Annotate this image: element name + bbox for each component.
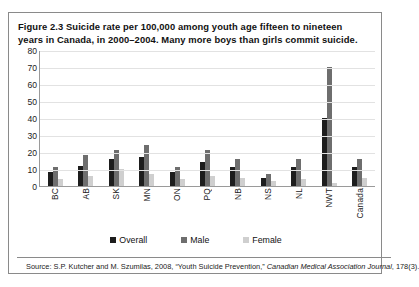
source-suffix: , 178(3).	[392, 262, 419, 271]
gridline	[40, 68, 375, 69]
source-box: Source: S.P. Kutcher and M. Szumilas, 20…	[17, 257, 391, 275]
legend-item-female: Female	[243, 235, 281, 245]
x-label-cell: Canada	[345, 188, 375, 230]
y-tick-label: 50	[27, 98, 37, 107]
x-label-cell: NS	[253, 188, 283, 230]
x-tick-label: BC	[50, 188, 60, 200]
x-tick-label: SK	[111, 188, 121, 200]
bar-female	[88, 176, 93, 186]
chart-area: 80706050403020100 BCABSKMNONPQNBNSNLNWTC…	[17, 51, 375, 219]
legend-label: Overall	[119, 235, 147, 245]
source-citation: Source: S.P. Kutcher and M. Szumilas, 20…	[26, 262, 419, 271]
bar-female	[332, 183, 337, 186]
bar-female	[210, 176, 215, 186]
y-tick-label: 60	[27, 81, 37, 90]
x-tick-label: ON	[172, 188, 182, 201]
x-tick-label: Canada	[355, 188, 365, 219]
x-tick-label: MN	[142, 188, 152, 201]
legend-swatch-icon	[110, 237, 116, 243]
legend-label: Male	[190, 235, 209, 245]
x-label-cell: BC	[40, 188, 70, 230]
bar-female	[180, 179, 185, 186]
x-tick-label: NS	[263, 188, 273, 200]
x-label-cell: NB	[223, 188, 253, 230]
x-label-cell: MN	[131, 188, 161, 230]
source-prefix: Source: S.P. Kutcher and M. Szumilas, 20…	[26, 262, 267, 271]
x-tick-label: AB	[81, 188, 91, 200]
x-tick-label: PQ	[202, 188, 212, 201]
legend-item-overall: Overall	[110, 235, 147, 245]
gridline	[40, 85, 375, 86]
source-journal-title: Canadian Medical Association Journal	[267, 262, 392, 271]
legend-item-male: Male	[181, 235, 209, 245]
gridline	[40, 102, 375, 103]
y-tick-label: 10	[27, 166, 37, 175]
bar-female	[119, 169, 124, 186]
y-axis: 80706050403020100	[17, 51, 39, 187]
figure-caption: Figure 2.3 Suicide rate per 100,000 amon…	[18, 21, 370, 46]
bar-female	[58, 179, 63, 186]
x-label-cell: NL	[284, 188, 314, 230]
plot-region	[40, 51, 375, 187]
bar-female	[149, 174, 154, 186]
x-label-cell: PQ	[192, 188, 222, 230]
gridline	[40, 51, 375, 52]
bar-female	[271, 181, 276, 186]
figure-frame: Figure 2.3 Suicide rate per 100,000 amon…	[8, 12, 382, 274]
gridline	[40, 136, 375, 137]
gridline	[40, 170, 375, 171]
x-tick-label: NWT	[324, 188, 334, 208]
x-tick-label: NB	[233, 188, 243, 200]
x-label-cell: ON	[162, 188, 192, 230]
y-tick-label: 40	[27, 115, 37, 124]
gridline	[40, 153, 375, 154]
x-tick-label: NL	[294, 188, 304, 199]
legend-swatch-icon	[243, 237, 249, 243]
y-tick-label: 70	[27, 64, 37, 73]
chart-legend: OverallMaleFemale	[17, 233, 375, 247]
x-label-cell: NWT	[314, 188, 344, 230]
y-tick-label: 80	[27, 47, 37, 56]
x-label-cell: AB	[70, 188, 100, 230]
y-tick-label: 20	[27, 149, 37, 158]
x-axis-labels: BCABSKMNONPQNBNSNLNWTCanada	[40, 188, 375, 230]
bar-female	[362, 178, 367, 187]
x-label-cell: SK	[101, 188, 131, 230]
legend-swatch-icon	[181, 237, 187, 243]
legend-label: Female	[252, 235, 281, 245]
y-tick-label: 0	[32, 183, 37, 192]
bar-female	[301, 179, 306, 186]
bar-female	[240, 178, 245, 187]
gridline	[40, 119, 375, 120]
y-tick-label: 30	[27, 132, 37, 141]
